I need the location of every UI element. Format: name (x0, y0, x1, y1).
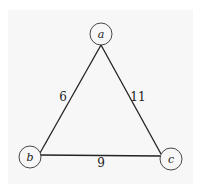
node-c: c (160, 148, 182, 170)
node-a: a (90, 23, 112, 45)
node-label-a: a (98, 28, 105, 41)
node-label-b: b (26, 151, 33, 164)
weighted-graph: 6 11 9 a b c (0, 0, 199, 192)
edge-a-b (40, 45, 101, 153)
node-label-c: c (168, 153, 174, 166)
edge-weight-a-c: 11 (130, 90, 145, 104)
node-b: b (19, 146, 41, 168)
edge-weight-a-b: 6 (59, 90, 67, 104)
edge-weight-b-c: 9 (97, 156, 105, 170)
